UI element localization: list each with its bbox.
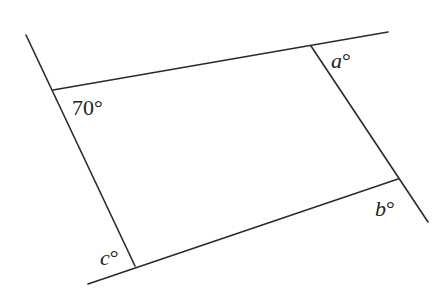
angle-value: 70 [72, 95, 94, 120]
angle-label-b: b° [375, 198, 395, 220]
degree-symbol: ° [386, 196, 395, 221]
diagram-lines [0, 0, 445, 298]
bottom-line [88, 179, 398, 284]
degree-symbol: ° [110, 245, 119, 270]
angle-label-70: 70° [72, 97, 103, 119]
right-line [311, 46, 428, 222]
angle-variable: b [375, 196, 386, 221]
angle-diagram: 70° a° b° c° [0, 0, 445, 298]
angle-label-c: c° [100, 247, 119, 269]
angle-variable: a [331, 48, 342, 73]
degree-symbol: ° [94, 95, 103, 120]
degree-symbol: ° [342, 48, 351, 73]
angle-label-a: a° [331, 50, 351, 72]
angle-variable: c [100, 245, 110, 270]
left-line [26, 35, 135, 266]
